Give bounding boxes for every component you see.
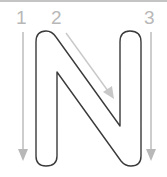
step-number-3: 3 — [144, 8, 155, 27]
step-number-1: 1 — [16, 8, 27, 27]
stroke-arrow-1 — [18, 32, 28, 161]
stroke-arrow-2 — [66, 33, 114, 99]
letter-n-outline — [36, 31, 141, 166]
step-number-2: 2 — [51, 8, 62, 27]
stroke-arrow-3 — [146, 32, 156, 161]
